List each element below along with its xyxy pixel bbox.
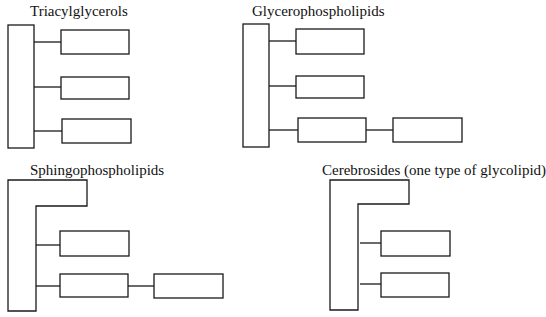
fatty-acid-box[interactable] xyxy=(381,231,450,256)
sugar-box[interactable] xyxy=(381,273,449,297)
fatty-acid-box[interactable] xyxy=(62,119,131,143)
diagram-cerebrosides xyxy=(330,180,450,310)
fatty-acid-box[interactable] xyxy=(296,76,364,98)
glycerol-backbone xyxy=(243,24,269,147)
diagram-triacylglycerols xyxy=(8,25,131,148)
diagram-sphingophospholipids xyxy=(8,180,223,311)
fatty-acid-box[interactable] xyxy=(296,29,364,54)
glycerol-backbone xyxy=(8,25,34,148)
phosphate-box[interactable] xyxy=(60,274,128,297)
phosphate-box[interactable] xyxy=(298,118,366,142)
diagram-glycerophospholipids xyxy=(243,24,462,147)
fatty-acid-box[interactable] xyxy=(61,30,129,54)
fatty-acid-box[interactable] xyxy=(60,231,129,256)
fatty-acid-box[interactable] xyxy=(61,77,129,99)
alcohol-box[interactable] xyxy=(154,274,223,298)
alcohol-box[interactable] xyxy=(393,118,462,142)
